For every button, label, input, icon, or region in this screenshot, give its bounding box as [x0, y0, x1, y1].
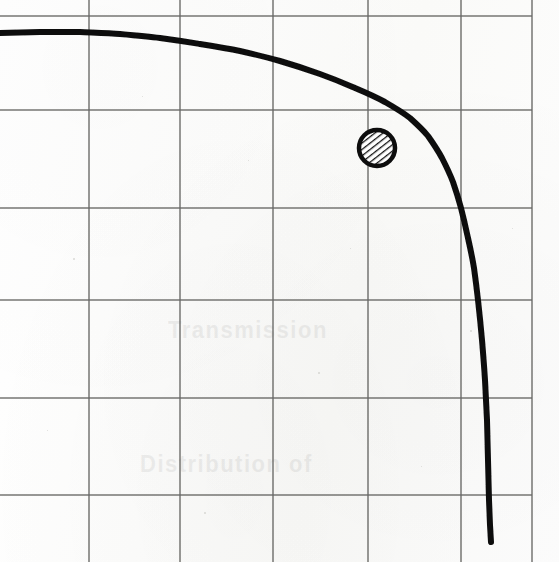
decay-curve — [0, 32, 491, 542]
hatched-data-point-marker — [359, 130, 396, 167]
grid-lines — [0, 0, 532, 562]
graph-plot-area — [0, 0, 559, 562]
scanned-graph-figure: TransmissionDistribution of — [0, 0, 559, 562]
curve-path-0 — [0, 32, 491, 542]
